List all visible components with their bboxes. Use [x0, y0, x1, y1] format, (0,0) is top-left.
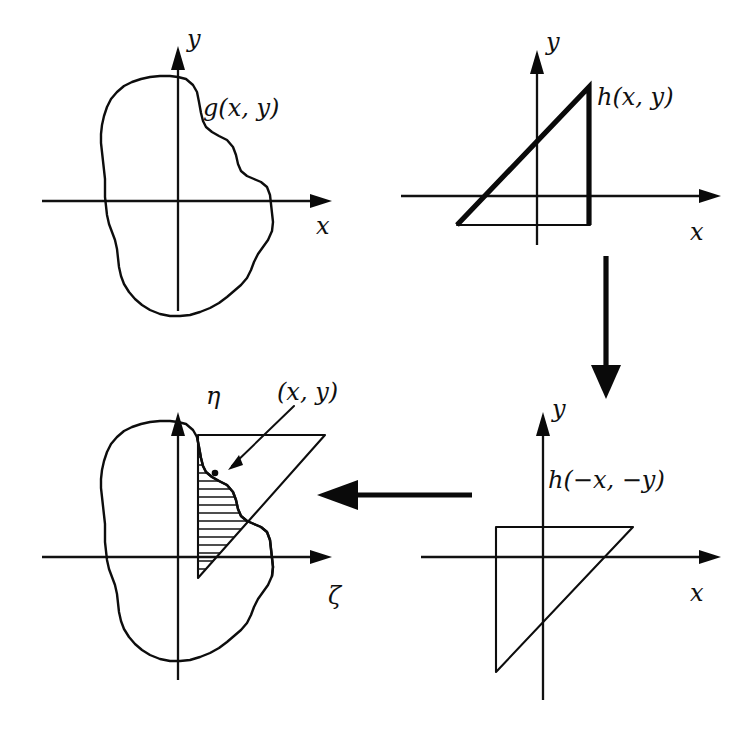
label-h-of-neg-x-neg-y: h(−x, −y): [548, 466, 665, 494]
axis-x-panel3: [421, 550, 721, 564]
axis-label-x-panel1: x: [316, 212, 330, 240]
blob-g-shape-shifted: [101, 421, 273, 661]
label-point-xy: (x, y): [277, 378, 338, 406]
axis-label-y-panel1: y: [186, 25, 201, 53]
figure-canvas: y x g(x, y) y x h(x,: [0, 0, 755, 739]
axis-label-zeta-panel4: ζ: [328, 582, 343, 610]
triangle-h-rotated-outline: [496, 527, 633, 672]
axis-label-y-panel2: y: [545, 28, 560, 56]
sample-point-marker: [212, 470, 219, 477]
axis-label-x-panel3: x: [690, 579, 704, 607]
axis-y-panel1: [171, 46, 185, 311]
panel-bottom-right: y x h(−x, −y): [421, 395, 721, 700]
axis-label-x-panel2: x: [690, 218, 704, 246]
label-g-of-xy: g(x, y): [203, 94, 279, 122]
axis-x-panel2: [401, 189, 721, 203]
axis-x-panel1: [42, 194, 332, 208]
panel-bottom-left: η ζ (x, y): [42, 378, 343, 680]
down-arrow: [591, 256, 621, 399]
axis-zeta-panel4: [42, 550, 332, 564]
figure-root: y x g(x, y) y x h(x,: [0, 0, 755, 739]
axis-label-y-panel3: y: [551, 395, 566, 423]
leader-line-point-xy: [212, 406, 294, 476]
panel-top-left: y x g(x, y): [42, 25, 332, 316]
axis-label-eta-panel4: η: [206, 382, 221, 410]
label-h-of-xy: h(x, y): [597, 83, 674, 111]
left-arrow: [317, 480, 472, 510]
axis-eta-panel4: [171, 412, 185, 680]
triangle-h-outline: [457, 87, 589, 225]
panel-top-right: y x h(x, y): [401, 28, 721, 246]
